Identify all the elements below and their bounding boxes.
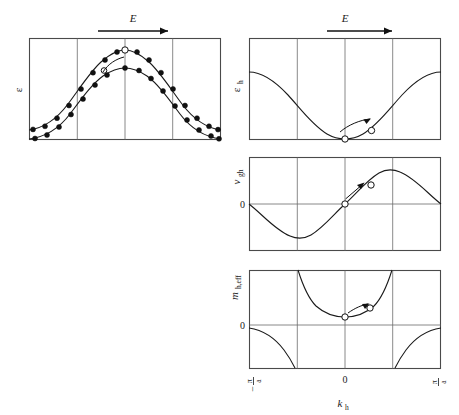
right-field-arrow-label: E xyxy=(341,12,349,24)
xaxis-title-sub: h xyxy=(345,403,349,412)
occupancy-marker xyxy=(115,50,120,55)
occupancy-marker xyxy=(185,118,190,123)
occupancy-marker xyxy=(57,125,62,130)
velocity-hole-marker-zero xyxy=(342,201,348,207)
right-field-arrow-head xyxy=(384,28,392,35)
mass-ylabel-main: m xyxy=(228,292,240,300)
occupancy-marker xyxy=(45,133,50,138)
mass-hole-marker-shifted xyxy=(367,305,373,311)
velocity-hole-marker-shifted xyxy=(368,182,374,188)
occupancy-marker xyxy=(173,104,178,109)
electron-occupancy-panel: ε xyxy=(12,39,222,142)
occupancy-marker xyxy=(216,127,221,132)
right-field-arrow-group: E xyxy=(327,12,392,35)
occupancy-marker xyxy=(183,103,188,108)
xaxis-tick-left-group: − π a xyxy=(245,377,263,392)
occupancy-marker xyxy=(147,58,152,63)
velocity-ylabel-sub: gh xyxy=(236,169,245,177)
occupancy-marker xyxy=(197,128,202,133)
occupancy-lower-filled-markers xyxy=(33,66,222,142)
occupancy-marker xyxy=(91,70,96,75)
occupancy-marker xyxy=(135,50,140,55)
occupancy-marker xyxy=(55,116,60,121)
mass-zero-tick: 0 xyxy=(240,320,245,331)
occupancy-upper-filled-markers xyxy=(31,50,221,133)
xaxis-tick-right-numerator: π xyxy=(430,380,439,384)
occupancy-marker xyxy=(103,58,108,63)
xaxis-tick-left-denominator: a xyxy=(254,379,263,383)
occupancy-marker xyxy=(161,89,166,94)
mass-hole-marker-center xyxy=(342,314,348,320)
xaxis-title-main: k xyxy=(338,397,344,409)
velocity-zero-tick: 0 xyxy=(240,199,245,210)
occupancy-marker xyxy=(209,134,214,139)
occupancy-marker xyxy=(43,124,48,129)
mass-right-negative-branch xyxy=(395,328,441,368)
occupancy-marker xyxy=(69,112,74,117)
left-field-arrow-group: E xyxy=(98,12,168,35)
occupancy-marker xyxy=(81,97,86,102)
xaxis-tick-left-numerator: π xyxy=(245,379,254,383)
energy-ylabel-sub: h xyxy=(236,80,245,84)
occupancy-marker xyxy=(149,76,154,81)
occupancy-marker xyxy=(195,116,200,121)
occupancy-marker xyxy=(171,87,176,92)
occupancy-marker xyxy=(159,70,164,75)
occupancy-marker xyxy=(137,68,142,73)
occupancy-marker xyxy=(31,127,36,132)
xaxis-tick-right-group: π a xyxy=(430,378,448,386)
xaxis-tick-right-denominator: a xyxy=(439,380,448,384)
figure-root: E ε xyxy=(0,0,459,415)
energy-hole-marker-shifted xyxy=(368,127,374,133)
energy-hole-arrow-head xyxy=(364,119,372,125)
occupancy-marker xyxy=(93,83,98,88)
velocity-ylabel-group: v gh xyxy=(230,169,245,184)
mass-ylabel-sub: h,eff xyxy=(234,275,243,289)
occupancy-marker xyxy=(207,124,212,129)
occupancy-marker xyxy=(67,103,72,108)
xaxis-title-group: k h xyxy=(338,397,349,412)
velocity-ylabel-main: v xyxy=(230,179,242,184)
xaxis-tick-left-sign: − xyxy=(247,386,258,392)
xaxis-tick-center: 0 xyxy=(343,374,348,385)
occupancy-marker xyxy=(123,66,128,71)
mass-ylabel-group: m h,eff xyxy=(228,275,243,300)
energy-hole-marker-min xyxy=(342,136,348,142)
energy-ylabel-main: ε xyxy=(230,87,242,92)
left-field-arrow-head xyxy=(160,28,168,35)
energy-ylabel-group: ε h xyxy=(230,80,245,92)
occupancy-hole-marker-upper xyxy=(122,47,128,53)
occupancy-marker xyxy=(33,136,38,141)
mass-left-negative-branch xyxy=(249,328,295,368)
hole-energy-panel: ε h xyxy=(230,39,441,143)
xaxis-ticks: − π a 0 π a k h xyxy=(245,374,448,412)
occupancy-marker xyxy=(217,136,222,141)
hole-velocity-panel: v gh 0 xyxy=(230,158,441,251)
hole-effective-mass-panel: m h,eff 0 xyxy=(228,270,441,369)
occupancy-ylabel: ε xyxy=(12,87,24,92)
left-field-arrow-label: E xyxy=(129,12,137,24)
occupancy-marker xyxy=(79,87,84,92)
